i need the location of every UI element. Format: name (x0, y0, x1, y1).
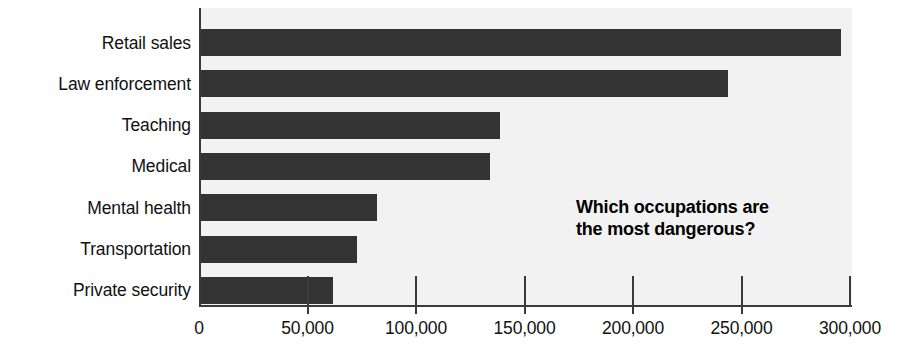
category-label: Medical (0, 156, 191, 176)
axis-tick-label: 200,000 (602, 318, 664, 338)
category-label: Private security (0, 280, 191, 300)
axis-tick-label: 150,000 (494, 318, 556, 338)
axis-tick-label: 50,000 (281, 318, 333, 338)
bar (201, 153, 490, 180)
bar (201, 194, 377, 221)
plot-area (199, 8, 852, 307)
category-label: Mental health (0, 198, 191, 218)
axis-tick-separator (524, 276, 526, 307)
bar (201, 70, 728, 97)
axis-tick-label: 300,000 (819, 318, 881, 338)
axis-tick-label: 0 (194, 318, 204, 338)
bar (201, 236, 357, 263)
annotation-line-1: Which occupations are (576, 196, 769, 218)
bar-chart: Retail salesLaw enforcementTeachingMedic… (0, 0, 900, 359)
bar (201, 277, 333, 304)
category-label: Teaching (0, 115, 191, 135)
axis-tick-label: 250,000 (711, 318, 773, 338)
axis-tick-separator (741, 276, 743, 307)
axis-tick-separator (632, 276, 634, 307)
category-label: Retail sales (0, 33, 191, 53)
category-axis-labels: Retail salesLaw enforcementTeachingMedic… (0, 8, 191, 305)
axis-tick-separator (307, 276, 309, 307)
axis-tick-separator (415, 276, 417, 307)
category-label: Law enforcement (0, 74, 191, 94)
bar (201, 112, 500, 139)
bar (201, 29, 841, 56)
chart-annotation: Which occupations are the most dangerous… (576, 196, 769, 240)
axis-tick-label: 100,000 (385, 318, 447, 338)
annotation-line-2: the most dangerous? (576, 218, 769, 240)
category-label: Transportation (0, 239, 191, 259)
plot-frame-right-stub (849, 276, 851, 307)
